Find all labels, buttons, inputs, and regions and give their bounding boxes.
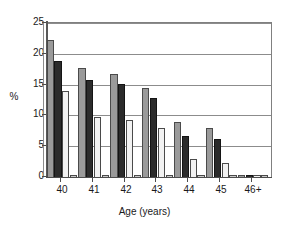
gridline	[48, 54, 271, 55]
bar	[110, 74, 117, 177]
bar	[150, 98, 157, 177]
bar	[253, 175, 260, 177]
bar	[174, 122, 181, 177]
bar	[134, 175, 141, 177]
y-tick-label: 0	[18, 171, 44, 181]
y-tick-mark	[42, 114, 46, 115]
bar	[126, 120, 133, 177]
bar	[206, 128, 213, 177]
x-tick-mark	[251, 178, 252, 182]
gridline	[48, 23, 271, 24]
bar	[62, 91, 69, 177]
x-tick-mark	[124, 178, 125, 182]
bar	[118, 84, 125, 177]
y-axis-ticks: 0510152025	[18, 0, 44, 234]
bar	[261, 175, 268, 177]
y-tick-label: 10	[18, 109, 44, 119]
bar	[214, 139, 221, 177]
y-tick-label: 25	[18, 17, 44, 27]
y-tick-mark	[42, 176, 46, 177]
y-tick-mark	[42, 53, 46, 54]
y-tick-label: 20	[18, 48, 44, 58]
plot-area	[48, 22, 272, 177]
y-tick-label: 5	[18, 140, 44, 150]
bar	[229, 175, 236, 177]
x-tick-mark	[187, 178, 188, 182]
bar	[54, 61, 61, 177]
bar	[142, 88, 149, 177]
y-axis-spine-inner	[43, 21, 44, 177]
x-axis-title: Age (years)	[0, 206, 289, 218]
y-tick-label: 15	[18, 79, 44, 89]
bar	[158, 128, 165, 177]
y-tick-mark	[42, 22, 46, 23]
bar	[246, 175, 253, 177]
x-tick-label: 46+	[233, 184, 273, 196]
bar-chart: % 0510152025 Age (years) 40414243444546+	[0, 0, 289, 234]
bar	[197, 175, 204, 177]
bar	[190, 159, 197, 177]
bar	[70, 175, 77, 177]
bar	[222, 163, 229, 177]
y-tick-mark	[42, 84, 46, 85]
bar	[47, 40, 54, 177]
bar	[238, 175, 245, 177]
bar	[78, 68, 85, 177]
y-tick-mark	[42, 145, 46, 146]
x-tick-mark	[219, 178, 220, 182]
bar	[86, 80, 93, 177]
x-tick-mark	[92, 178, 93, 182]
bar	[102, 175, 109, 177]
bar	[166, 175, 173, 177]
bar	[94, 117, 101, 177]
x-tick-mark	[155, 178, 156, 182]
bar	[182, 136, 189, 177]
x-tick-mark	[60, 178, 61, 182]
